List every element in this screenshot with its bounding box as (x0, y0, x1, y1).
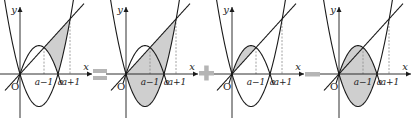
origin-label: O (330, 81, 338, 92)
a-minus-1-label: a−1 (354, 77, 373, 87)
shaded-region (44, 19, 70, 74)
a-minus-1-label: a−1 (247, 77, 266, 87)
origin-label: O (117, 81, 125, 92)
y-axis-label: y (10, 4, 17, 15)
x-axis-label: x (189, 61, 195, 72)
figure-canvas: yxOa−1aa+1yxOa−1aa+1yxOa−1aa+1yxOa−1aa+1 (0, 0, 414, 122)
plus-sign (199, 66, 214, 81)
panel-3: yxOa−1aa+1 (212, 0, 304, 118)
x-axis-label: x (83, 61, 89, 72)
a-plus-1-label: a+1 (62, 77, 81, 87)
x-axis-label: x (295, 61, 301, 72)
a-minus-1-label: a−1 (35, 77, 54, 87)
panel-1: yxOa−1aa+1 (0, 0, 92, 118)
equals-sign (93, 69, 107, 80)
area-decomposition-figure: yxOa−1aa+1yxOa−1aa+1yxOa−1aa+1yxOa−1aa+1 (0, 0, 414, 122)
y-axis-label: y (116, 4, 123, 15)
origin-label: O (11, 81, 19, 92)
panel-4: yxOa−1aa+1 (319, 0, 411, 118)
origin-label: O (223, 81, 231, 92)
graph-panels: yxOa−1aa+1yxOa−1aa+1yxOa−1aa+1yxOa−1aa+1 (0, 0, 411, 118)
panel-2: yxOa−1aa+1 (106, 0, 198, 118)
minus-sign (305, 72, 320, 77)
a-plus-1-label: a+1 (274, 77, 293, 87)
y-axis-label: y (222, 4, 229, 15)
a-plus-1-label: a+1 (168, 77, 187, 87)
a-plus-1-label: a+1 (381, 77, 400, 87)
y-axis-label: y (329, 4, 336, 15)
a-minus-1-label: a−1 (141, 77, 160, 87)
x-axis-label: x (402, 61, 408, 72)
